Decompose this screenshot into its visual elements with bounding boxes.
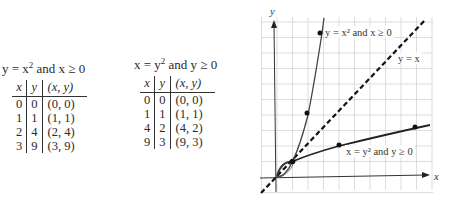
- table2-header-row: x y (x, y): [140, 76, 215, 93]
- table-row: 42(4, 2): [140, 121, 215, 135]
- cell: 9: [27, 139, 42, 153]
- table-x-equals-y-squared: x = y2 and y ≥ 0 x y (x, y) 00(0, 0) 11(…: [134, 56, 217, 149]
- header-xy: (x, y): [42, 80, 87, 97]
- point-9-3: [413, 125, 418, 130]
- data-points: [290, 31, 418, 165]
- header-xy: (x, y): [170, 76, 215, 93]
- header-x: x: [140, 76, 155, 93]
- point-2-4: [305, 111, 310, 116]
- cell: (1, 1): [170, 107, 215, 121]
- table-row: 00(0, 0): [12, 97, 87, 112]
- point-4-2: [337, 143, 342, 148]
- table-y-equals-x-squared: y = x2 and x ≥ 0 x y (x, y) 00(0, 0) 11(…: [2, 60, 87, 153]
- table1-title: y = x2 and x ≥ 0: [2, 60, 87, 77]
- header-y: y: [155, 76, 170, 93]
- y-axis-arrow-icon: [271, 20, 277, 28]
- x-axis-arrow-icon: [422, 172, 430, 178]
- cell: (9, 3): [170, 135, 215, 149]
- table-row: 24(2, 4): [12, 125, 87, 139]
- cell: 0: [27, 97, 42, 112]
- cell: (2, 4): [42, 125, 87, 139]
- cell: 3: [12, 139, 27, 153]
- table-row: 00(0, 0): [140, 93, 215, 108]
- cell: 0: [140, 93, 155, 108]
- table-row: 11(1, 1): [12, 111, 87, 125]
- cell: 4: [27, 125, 42, 139]
- y-axis: [274, 24, 276, 192]
- cell: (0, 0): [42, 97, 87, 112]
- header-y: y: [27, 80, 42, 97]
- cell: (0, 0): [170, 93, 215, 108]
- header-x: x: [12, 80, 27, 97]
- table1-header-row: x y (x, y): [12, 80, 87, 97]
- point-3-9: [318, 31, 323, 36]
- cell: 1: [27, 111, 42, 125]
- table-row: 39(3, 9): [12, 139, 87, 153]
- cell: 4: [140, 121, 155, 135]
- x-axis-label: x: [433, 171, 439, 182]
- cell: (4, 2): [170, 121, 215, 135]
- sqrt-curve-label: x = y² and y ≥ 0: [346, 146, 413, 157]
- cell: 3: [155, 135, 170, 149]
- table1: x y (x, y) 00(0, 0) 11(1, 1) 24(2, 4) 39…: [12, 80, 87, 153]
- identity-line-label: y = x: [398, 53, 420, 64]
- table2: x y (x, y) 00(0, 0) 11(1, 1) 42(4, 2) 93…: [140, 76, 215, 149]
- point-1-1: [290, 159, 296, 165]
- grid: [261, 17, 433, 193]
- y-axis-label: y: [269, 6, 275, 17]
- cell: 1: [140, 107, 155, 121]
- cell: (1, 1): [42, 111, 87, 125]
- cell: 9: [140, 135, 155, 149]
- cell: 0: [155, 93, 170, 108]
- cell: 2: [12, 125, 27, 139]
- cell: 0: [12, 97, 27, 112]
- cell: 1: [155, 107, 170, 121]
- table-row: 11(1, 1): [140, 107, 215, 121]
- cell: (3, 9): [42, 139, 87, 153]
- cell: 2: [155, 121, 170, 135]
- cell: 1: [12, 111, 27, 125]
- table-row: 93(9, 3): [140, 135, 215, 149]
- function-graph: y x y = x² and x ≥ 0 y = x x = y² and y …: [258, 0, 456, 197]
- parabola-label: y = x² and x ≥ 0: [325, 27, 392, 38]
- table2-title: x = y2 and y ≥ 0: [134, 56, 217, 73]
